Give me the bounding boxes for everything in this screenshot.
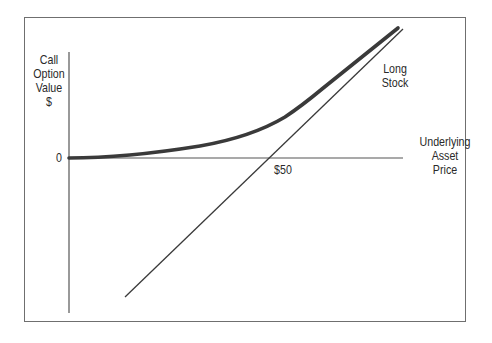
y-label-line: $: [30, 95, 68, 109]
origin-label: 0: [54, 151, 64, 165]
x-label-line: Price: [408, 163, 482, 177]
long-stock-label-line: Long: [376, 62, 414, 76]
x-label-line: Underlying: [408, 135, 482, 149]
long-stock-label: Long Stock: [376, 62, 414, 90]
long-stock-line: [125, 29, 403, 297]
strike-price-label: $50: [271, 163, 296, 177]
diagram-canvas: Call Option Value $ 0 $50 Long Stock Und…: [0, 0, 492, 343]
y-label-line: Call: [30, 53, 68, 67]
x-label-line: Asset: [408, 149, 482, 163]
x-axis-label: Underlying Asset Price: [408, 135, 482, 177]
long-stock-label-line: Stock: [376, 76, 414, 90]
y-axis-label: Call Option Value $: [30, 53, 68, 109]
call-option-curve: [69, 28, 398, 158]
y-label-line: Value: [30, 81, 68, 95]
y-label-line: Option: [30, 67, 68, 81]
